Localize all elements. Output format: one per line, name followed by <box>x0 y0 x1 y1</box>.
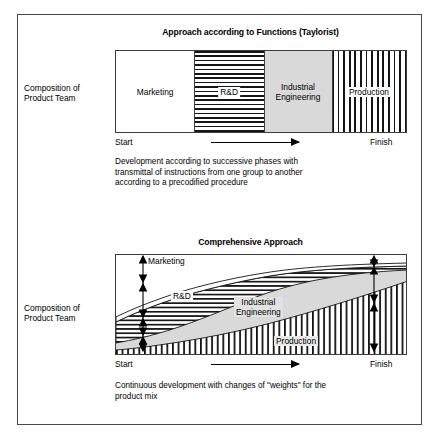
side-label-line2: Product Team <box>24 93 76 103</box>
figure-frame: Approach according to Functions (Taylori… <box>17 14 422 425</box>
figure-root: Approach according to Functions (Taylori… <box>0 0 438 445</box>
divider-ie-production <box>332 51 333 132</box>
panel-taylorist-caption: Development according to successive phas… <box>115 157 405 189</box>
segment-rd: R&D <box>194 51 264 132</box>
segment-marketing: Marketing <box>116 51 194 132</box>
panel-comprehensive-side-label: Composition ofProduct Team <box>24 303 80 324</box>
left-tick-b-up <box>140 310 147 317</box>
left-tick-c-dn <box>140 337 147 344</box>
taylorist-plot: Marketing R&D IndustrialEngineering Prod… <box>115 50 407 133</box>
comprehensive-time-arrow-icon <box>211 360 299 369</box>
panel-comprehensive-caption: Continuous development with changes of "… <box>115 381 405 402</box>
side-label-line1: Composition of <box>24 83 80 93</box>
divider-rd-ie <box>264 51 265 132</box>
right-tick-a-dn <box>371 268 378 274</box>
panel-comprehensive-title: Comprehensive Approach <box>103 237 398 247</box>
comprehensive-start-label: Start <box>115 359 133 369</box>
left-arrow-head-bottom <box>140 344 147 351</box>
segment-industrial-engineering-label: IndustrialEngineering <box>274 82 323 102</box>
thickness-arrows <box>116 255 407 355</box>
panel-taylorist-side-label: Composition ofProduct Team <box>24 83 80 104</box>
side-label2-line1: Composition of <box>24 303 80 313</box>
panel-taylorist-title: Approach according to Functions (Taylori… <box>103 27 398 37</box>
right-arrow-head-bottom <box>371 344 378 351</box>
side-label2-line2: Product Team <box>24 313 76 323</box>
taylorist-time-arrow-icon <box>211 138 299 147</box>
divider-marketing-rd <box>194 51 195 132</box>
right-tick-b-up <box>371 295 378 302</box>
comprehensive-finish-label: Finish <box>370 359 392 369</box>
segment-production-label: Production <box>347 87 391 97</box>
segment-industrial-engineering: IndustrialEngineering <box>264 51 332 132</box>
right-tick-b-dn <box>371 304 378 311</box>
segment-marketing-label: Marketing <box>135 87 176 97</box>
segment-production: Production <box>332 51 406 132</box>
taylorist-start-label: Start <box>115 137 133 147</box>
left-arrow-head-top <box>140 256 147 263</box>
segment-rd-label: R&D <box>218 87 240 97</box>
left-tick-c-up <box>140 328 147 335</box>
comprehensive-plot: Marketing R&D IndustrialEngineering Prod… <box>115 254 407 355</box>
left-tick-a-dn <box>140 284 147 291</box>
ie-line1: Industrial <box>281 82 315 92</box>
left-tick-a-up <box>140 275 147 282</box>
ie-line2: Engineering <box>276 92 321 102</box>
left-tick-b-dn <box>140 319 147 326</box>
taylorist-finish-label: Finish <box>370 137 392 147</box>
